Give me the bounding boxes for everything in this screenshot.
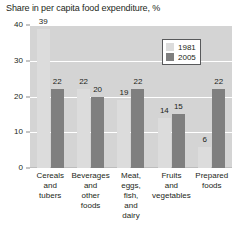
bar-1981: 14 <box>158 118 171 168</box>
category-label-line: fish, <box>111 191 151 201</box>
bar-value-label: 22 <box>134 78 143 86</box>
category-label: Cerealsandtubers <box>30 171 70 201</box>
bar-2005: 15 <box>172 114 185 168</box>
bar-group-bars: 3922 <box>30 25 70 168</box>
legend-swatch-2005-icon <box>166 53 174 61</box>
category-label-line: foods <box>70 201 110 211</box>
y-axis: 010203040 <box>0 25 30 168</box>
plot-area: 3922222019221415622 <box>30 25 232 168</box>
bar-2005: 22 <box>212 89 225 168</box>
bar-chart: Share in per capita food expenditure, % … <box>0 0 245 237</box>
bar-group: 1922 <box>111 25 151 168</box>
category-label: Fruitsandvegetables <box>151 171 191 201</box>
bar-1981: 6 <box>198 147 211 168</box>
y-axis-tick-label: 40 <box>14 21 23 29</box>
bar-1981: 19 <box>117 100 130 168</box>
category-label-line: and <box>151 181 191 191</box>
legend-label-2005: 2005 <box>178 53 196 62</box>
bar-value-label: 39 <box>39 18 48 26</box>
category-label-line: and <box>70 181 110 191</box>
category-label-line: Meat, <box>111 171 151 181</box>
bar-value-label: 22 <box>53 78 62 86</box>
category-label-line: tubers <box>30 191 70 201</box>
category-label: Preparedfoods <box>192 171 232 191</box>
chart-title: Share in per capita food expenditure, % <box>6 3 160 14</box>
bar-value-label: 6 <box>203 136 207 144</box>
bar-value-label: 15 <box>174 103 183 111</box>
bar-2005: 20 <box>91 97 104 169</box>
bar-group: 3922 <box>30 25 70 168</box>
category-label-line: foods <box>192 181 232 191</box>
category-label-line: Cereals <box>30 171 70 181</box>
x-axis-category-labels: CerealsandtubersBeveragesandotherfoodsMe… <box>30 171 232 235</box>
legend-item-2005: 2005 <box>166 52 196 62</box>
bar-value-label: 22 <box>79 78 88 86</box>
bar-value-label: 19 <box>120 89 129 97</box>
category-label-line: eggs, <box>111 181 151 191</box>
legend-swatch-1981-icon <box>166 43 174 51</box>
category-label-line: other <box>70 191 110 201</box>
bar-2005: 22 <box>131 89 144 168</box>
category-label: Meat,eggs,fish,anddairy <box>111 171 151 221</box>
bar-1981: 39 <box>37 29 50 168</box>
category-label-line: vegetables <box>151 191 191 201</box>
legend-label-1981: 1981 <box>178 43 196 52</box>
bar-1981: 22 <box>77 89 90 168</box>
category-label-line: Beverages <box>70 171 110 181</box>
bar-value-label: 14 <box>160 107 169 115</box>
category-label-line: Prepared <box>192 171 232 181</box>
bar-group-bars: 1922 <box>111 25 151 168</box>
y-axis-tick-label: 20 <box>14 93 23 101</box>
category-label-line: Fruits <box>151 171 191 181</box>
chart-legend: 1981 2005 <box>162 39 201 65</box>
legend-item-1981: 1981 <box>166 42 196 52</box>
bar-2005: 22 <box>51 89 64 168</box>
bar-value-label: 20 <box>93 86 102 94</box>
y-axis-tick-label: 10 <box>14 128 23 136</box>
category-label-line: and <box>30 181 70 191</box>
bar-value-label: 22 <box>214 78 223 86</box>
category-label: Beveragesandotherfoods <box>70 171 110 211</box>
y-axis-tick-label: 30 <box>14 57 23 65</box>
bar-group: 2220 <box>70 25 110 168</box>
category-label-line: and <box>111 201 151 211</box>
bar-group-bars: 2220 <box>70 25 110 168</box>
y-axis-tick-label: 0 <box>19 164 23 172</box>
category-label-line: dairy <box>111 211 151 221</box>
